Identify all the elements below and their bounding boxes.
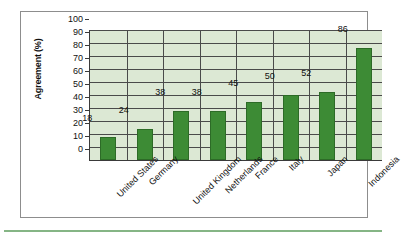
y-axis-tick-label-wrap: 100	[35, 15, 83, 24]
y-axis-tick-label: 0	[39, 145, 83, 154]
category-separator	[346, 30, 347, 160]
bar	[100, 137, 116, 160]
category-separator	[127, 30, 128, 160]
y-axis-tick-label: 100	[39, 15, 83, 24]
bar	[173, 111, 189, 160]
y-axis-tick-label: 70	[39, 54, 83, 63]
y-axis-tick-label: 60	[39, 67, 83, 76]
bar	[356, 48, 372, 160]
bar-value-label: 38	[177, 88, 217, 97]
y-axis-tick-label-wrap: 90	[35, 28, 83, 37]
bar-value-label: 50	[250, 72, 290, 81]
plot-area	[89, 30, 382, 161]
y-axis-tick-label: 50	[39, 80, 83, 89]
y-axis-tick-group: 1009080706050403020100	[21, 12, 89, 240]
bar-value-label: 86	[323, 25, 363, 34]
bar-value-label: 38	[140, 88, 180, 97]
category-separator	[273, 30, 274, 160]
bar	[319, 92, 335, 160]
bar	[210, 111, 226, 160]
y-axis-tick-label-wrap: 50	[35, 80, 83, 89]
y-axis-tick-label-wrap: 40	[35, 93, 83, 102]
y-axis-tick-label: 10	[39, 132, 83, 141]
bar-value-label: 24	[104, 106, 144, 115]
category-separator	[309, 30, 310, 160]
y-axis-tick-label: 90	[39, 28, 83, 37]
y-axis-tick-label: 40	[39, 93, 83, 102]
y-axis-tick-mark	[85, 19, 89, 20]
y-axis-tick-label-wrap: 60	[35, 67, 83, 76]
bar-value-label: 18	[67, 114, 107, 123]
y-axis-tick-label: 80	[39, 41, 83, 50]
bar-value-label: 52	[286, 69, 326, 78]
y-axis-tick-label-wrap: 80	[35, 41, 83, 50]
bar	[246, 102, 262, 161]
y-axis-tick-label-wrap: 0	[35, 145, 83, 154]
bar-value-label: 45	[213, 79, 253, 88]
bar	[283, 95, 299, 160]
y-axis-tick-label-wrap: 10	[35, 132, 83, 141]
category-separator	[236, 30, 237, 160]
y-axis-tick-label-wrap: 70	[35, 54, 83, 63]
chart-frame: Agreement (%) 1009080706050403020100 182…	[20, 11, 368, 218]
